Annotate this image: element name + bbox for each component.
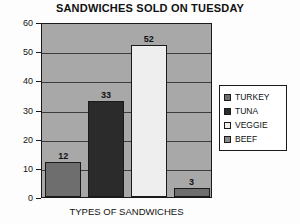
- legend-item-turkey[interactable]: TURKEY: [224, 90, 283, 104]
- chart-legend: TURKEYTUNAVEGGIEBEEF: [219, 85, 287, 151]
- bar-veggie: [131, 45, 167, 197]
- bar-tuna: [88, 101, 124, 197]
- y-tick-label: 30: [23, 106, 33, 116]
- y-tick-label: 60: [23, 18, 33, 28]
- bar-beef: [174, 188, 210, 197]
- bar-chart: SANDWICHES SOLD ON TUESDAY 0102030405060…: [0, 0, 300, 224]
- bar-value-label: 3: [174, 177, 210, 187]
- legend-item-beef[interactable]: BEEF: [224, 132, 283, 146]
- y-axis: 0102030405060: [0, 23, 41, 198]
- plot-area: 1233523: [41, 23, 212, 198]
- legend-label: TUNA: [235, 107, 258, 116]
- x-axis-label: TYPES OF SANDWICHES: [41, 206, 212, 217]
- legend-label: TURKEY: [235, 93, 269, 102]
- legend-item-veggie[interactable]: VEGGIE: [224, 118, 283, 132]
- legend-swatch-icon: [224, 94, 231, 101]
- chart-title: SANDWICHES SOLD ON TUESDAY: [0, 2, 300, 14]
- gridline: [42, 53, 211, 54]
- y-tick-label: 0: [28, 193, 33, 203]
- y-tick-label: 50: [23, 47, 33, 57]
- legend-label: VEGGIE: [235, 121, 268, 130]
- gridline: [42, 82, 211, 83]
- bar-value-label: 33: [88, 90, 124, 100]
- gridline: [42, 141, 211, 142]
- bar-turkey: [45, 162, 81, 197]
- legend-item-tuna[interactable]: TUNA: [224, 104, 283, 118]
- bar-value-label: 12: [45, 151, 81, 161]
- bar-value-label: 52: [131, 34, 167, 44]
- y-tick-label: 10: [23, 164, 33, 174]
- legend-label: BEEF: [235, 135, 257, 144]
- legend-swatch-icon: [224, 108, 231, 115]
- legend-swatch-icon: [224, 122, 231, 129]
- gridline: [42, 112, 211, 113]
- y-tick-label: 40: [23, 76, 33, 86]
- y-tick-label: 20: [23, 135, 33, 145]
- y-tick-mark: [36, 198, 41, 199]
- legend-swatch-icon: [224, 136, 231, 143]
